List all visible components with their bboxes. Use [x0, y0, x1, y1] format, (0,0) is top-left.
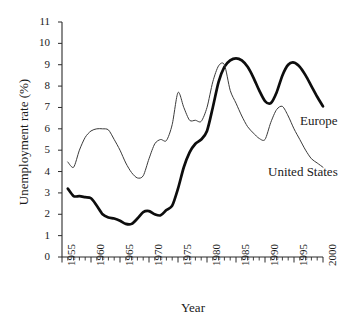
x-tick-label: 1990	[269, 244, 280, 266]
y-tick-label: 4	[34, 166, 50, 177]
y-tick-label: 3	[34, 187, 50, 198]
y-tick-label: 7	[34, 101, 50, 112]
y-tick-label: 6	[34, 123, 50, 134]
x-tick-label: 1965	[124, 244, 135, 266]
ticks-group	[58, 22, 323, 263]
x-tick-label: 1970	[153, 244, 164, 266]
x-tick-label: 1995	[298, 244, 309, 266]
x-tick-label: 1975	[182, 244, 193, 266]
x-axis-title: Year	[62, 300, 324, 316]
y-tick-label: 1	[34, 230, 50, 241]
y-tick-label: 9	[34, 59, 50, 70]
series-label-europe: Europe	[300, 113, 338, 129]
x-tick-label: 1955	[66, 244, 77, 266]
axes-group	[62, 22, 323, 257]
x-tick-label: 1960	[95, 244, 106, 266]
y-tick-label: 11	[34, 16, 50, 27]
chart-plot-area	[0, 0, 363, 324]
y-tick-label: 10	[34, 37, 50, 48]
unemployment-rate-chart: 01234567891011 1955196019651970197519801…	[0, 0, 363, 324]
y-tick-label: 8	[34, 80, 50, 91]
y-axis-title: Unemployment rate (%)	[16, 22, 34, 262]
x-tick-label: 2000	[327, 244, 338, 266]
series-label-united-states: United States	[268, 164, 338, 180]
x-tick-label: 1980	[211, 244, 222, 266]
series-line-united-states	[68, 63, 323, 178]
x-tick-label: 1985	[240, 244, 251, 266]
y-tick-label: 5	[34, 144, 50, 155]
y-tick-label: 2	[34, 208, 50, 219]
series-line-europe	[68, 58, 323, 224]
y-tick-label: 0	[34, 251, 50, 262]
